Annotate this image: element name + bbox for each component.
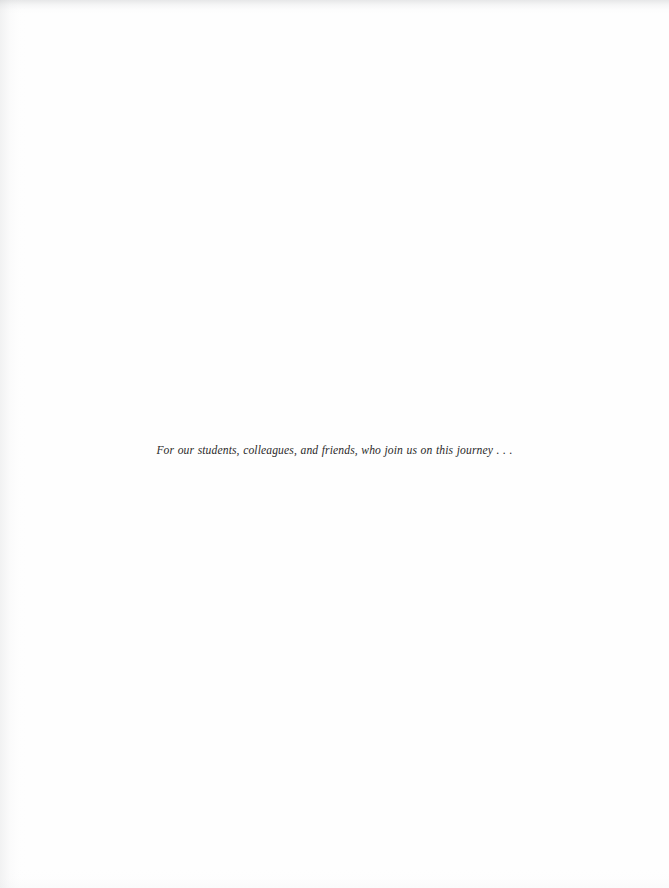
dedication-block: For our students, colleagues, and friend… bbox=[0, 440, 669, 459]
scan-edge-shadow-bottom bbox=[0, 870, 669, 888]
scanned-page: For our students, colleagues, and friend… bbox=[0, 0, 669, 888]
dedication-text: For our students, colleagues, and friend… bbox=[156, 442, 512, 459]
scan-edge-shadow-top bbox=[0, 0, 669, 14]
